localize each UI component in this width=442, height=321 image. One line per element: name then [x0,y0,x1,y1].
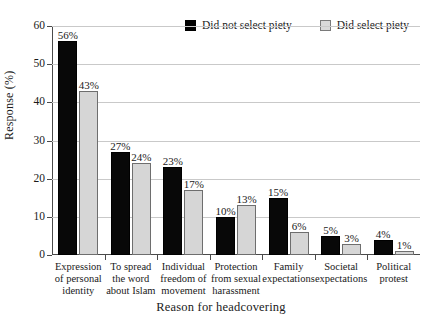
x-category-label: Societalexpectations [315,261,368,285]
x-category-label-line: of personal [52,273,105,285]
x-category-label: Politicalprotest [367,261,420,285]
bar: 5% [321,236,340,255]
x-category-label-line: the word [105,273,158,285]
y-tick-label: 30 [34,135,46,147]
x-tick-mark [315,255,316,260]
x-category-label: Protectionfrom sexualharassment [210,261,263,298]
x-category-label-line: Societal [315,261,368,273]
x-category-label: Familyexpectations [262,261,315,285]
x-category-label-line: Protection [210,261,263,273]
bar-value-label: 13% [236,194,256,205]
x-category-label-line: Expression [52,261,105,273]
y-tick-label: 20 [34,173,46,185]
bar: 17% [184,190,203,255]
x-category-label: Individualfreedom ofmovement [157,261,210,298]
x-category-label-line: harassment [210,285,263,297]
y-tick-label: 10 [34,211,46,223]
bar-group: 23%17% [157,26,210,255]
bar: 24% [132,163,151,255]
y-tick-label: 40 [34,97,46,109]
bar-value-label: 15% [268,187,288,198]
bar-value-label: 1% [397,240,412,251]
x-category-label-line: movement [157,285,210,297]
bar-group: 5%3% [315,26,368,255]
bar: 3% [342,244,361,255]
x-category-label-line: expectations [315,273,368,285]
bar-value-label: 23% [163,156,183,167]
x-axis-title: Reason for headcovering [0,300,442,315]
bar-value-label: 3% [344,233,359,244]
plot-area: 6050403020100 56%43%27%24%23%17%10%13%15… [52,26,420,255]
bar: 10% [216,217,235,255]
bar-value-label: 24% [131,152,151,163]
bar-group: 15%6% [262,26,315,255]
x-category-label-line: identity [52,285,105,297]
x-category-label-line: freedom of [157,273,210,285]
bar-value-label: 43% [79,80,99,91]
bar-value-label: 6% [292,221,307,232]
x-category-label: To spreadthe wordabout Islam [105,261,158,298]
bar: 15% [269,198,288,255]
y-tick-label: 50 [34,58,46,70]
bar: 6% [290,232,309,255]
x-category-label-line: protest [367,273,420,285]
bar-value-label: 27% [110,141,130,152]
x-category-label-line: Political [367,261,420,273]
bar-value-label: 56% [58,30,78,41]
bar: 56% [58,41,77,255]
bar-group: 27%24% [105,26,158,255]
bar: 23% [163,167,182,255]
bar-value-label: 4% [376,229,391,240]
x-tick-mark [262,255,263,260]
x-category-label-line: Family [262,261,315,273]
x-category-label-line: Individual [157,261,210,273]
x-tick-mark [210,255,211,260]
y-axis-title: Response (%) [2,71,17,140]
x-category-label-line: expectations [262,273,315,285]
y-tick-mark [47,255,52,256]
bar: 27% [111,152,130,255]
bar-value-label: 5% [323,225,338,236]
bar-group: 10%13% [210,26,263,255]
bar: 13% [237,205,256,255]
y-tick-label: 0 [39,249,45,261]
bar-value-label: 10% [215,206,235,217]
bar-group: 56%43% [52,26,105,255]
y-tick-label: 60 [34,20,46,32]
bar-group: 4%1% [367,26,420,255]
bar: 43% [79,91,98,255]
bar: 4% [374,240,393,255]
x-category-label-line: from sexual [210,273,263,285]
x-tick-mark [367,255,368,260]
x-tick-mark [105,255,106,260]
x-category-label-line: To spread [105,261,158,273]
x-tick-mark [157,255,158,260]
bar-chart: Did not select piety Did select piety Re… [0,0,442,321]
bar: 1% [395,251,414,255]
x-category-label-line: about Islam [105,285,158,297]
x-axis-category-labels: Expressionof personalidentityTo spreadth… [52,261,420,305]
bar-value-label: 17% [184,179,204,190]
x-category-label: Expressionof personalidentity [52,261,105,298]
